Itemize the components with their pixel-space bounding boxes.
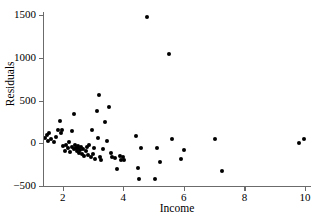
data-point bbox=[297, 141, 301, 145]
y-axis-tick-label: 1000 bbox=[14, 52, 36, 63]
data-point bbox=[167, 52, 171, 56]
data-point bbox=[52, 140, 56, 144]
data-point bbox=[67, 140, 71, 144]
data-point bbox=[47, 131, 51, 135]
x-axis-title: Income bbox=[43, 203, 311, 215]
data-point bbox=[58, 119, 62, 123]
data-point bbox=[113, 156, 117, 160]
data-point bbox=[91, 152, 95, 156]
data-point bbox=[92, 146, 96, 150]
data-point bbox=[103, 120, 107, 124]
data-point bbox=[155, 146, 159, 150]
x-axis-tick-label: 2 bbox=[51, 192, 75, 203]
data-point bbox=[179, 157, 183, 161]
data-point bbox=[122, 158, 126, 162]
data-point bbox=[93, 157, 97, 161]
data-point bbox=[70, 129, 74, 133]
data-point bbox=[105, 139, 109, 143]
data-point bbox=[137, 177, 141, 181]
y-axis-tick-label: 500 bbox=[20, 95, 37, 106]
data-point bbox=[97, 93, 101, 97]
x-axis-tick-label: 10 bbox=[293, 192, 317, 203]
y-axis-tick bbox=[39, 15, 44, 16]
data-point bbox=[59, 131, 63, 135]
scatter-plot-figure: −500050010001500246810 Residuals Income bbox=[0, 0, 318, 220]
data-point bbox=[302, 137, 306, 141]
y-axis-tick bbox=[39, 101, 44, 102]
data-point bbox=[107, 105, 111, 109]
data-point bbox=[99, 158, 103, 162]
data-point bbox=[72, 112, 76, 116]
data-point bbox=[136, 166, 140, 170]
x-axis-tick-label: 8 bbox=[232, 192, 256, 203]
plot-area bbox=[43, 10, 311, 186]
data-point bbox=[96, 136, 100, 140]
y-axis-title: Residuals bbox=[5, 49, 17, 119]
data-point bbox=[89, 155, 93, 159]
data-point bbox=[139, 146, 143, 150]
x-axis-tick-label: 4 bbox=[111, 192, 135, 203]
data-point bbox=[90, 128, 94, 132]
y-axis-tick-label: −500 bbox=[13, 180, 36, 191]
y-axis-line bbox=[43, 12, 44, 187]
data-point bbox=[153, 177, 157, 181]
data-point bbox=[145, 15, 149, 19]
data-point bbox=[101, 147, 105, 151]
data-point bbox=[170, 137, 174, 141]
data-point bbox=[60, 128, 64, 132]
y-axis-tick bbox=[39, 186, 44, 187]
data-point bbox=[220, 169, 224, 173]
y-axis-tick-label: 1500 bbox=[14, 9, 36, 20]
y-axis-tick bbox=[39, 143, 44, 144]
data-point bbox=[115, 167, 119, 171]
data-point bbox=[158, 160, 162, 164]
y-axis-tick bbox=[39, 58, 44, 59]
data-point bbox=[87, 143, 91, 147]
data-point bbox=[54, 135, 58, 139]
data-point bbox=[134, 134, 138, 138]
data-point bbox=[213, 137, 217, 141]
data-point bbox=[95, 109, 99, 113]
y-axis-tick-label: 0 bbox=[31, 137, 37, 148]
data-point bbox=[182, 148, 186, 152]
x-axis-line bbox=[43, 186, 311, 187]
